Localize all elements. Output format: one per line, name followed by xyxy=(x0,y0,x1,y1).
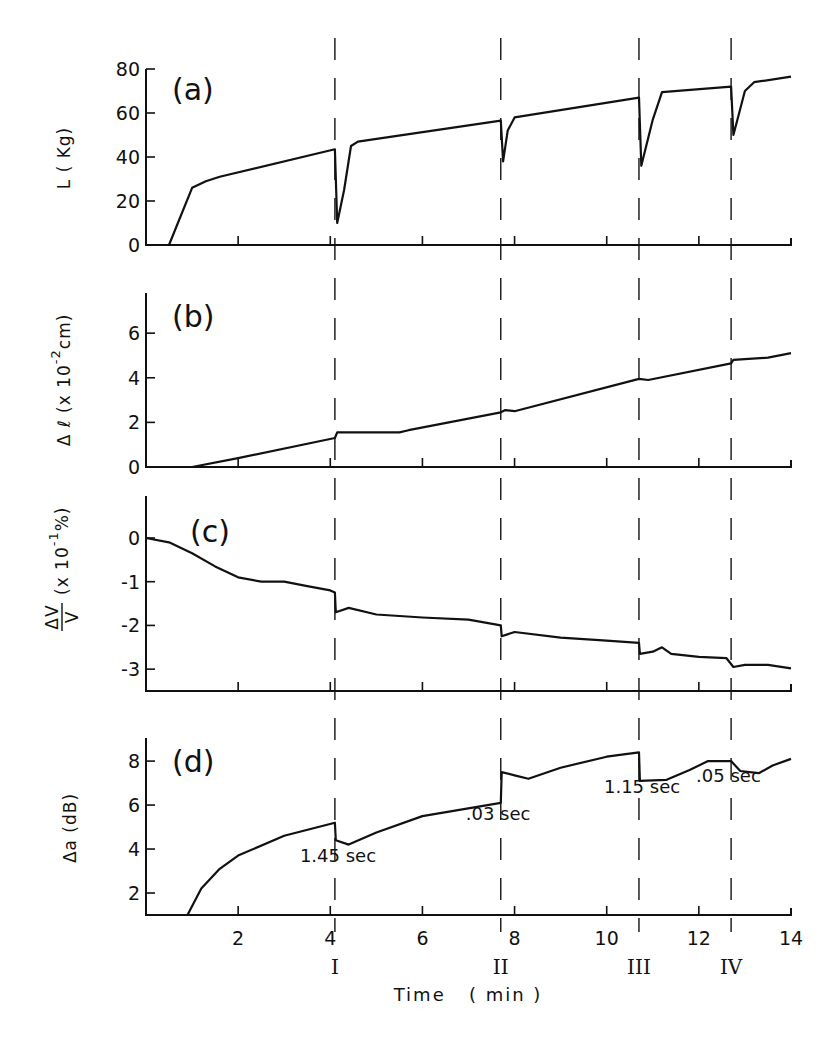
panel-b-ylabel-unit: cm) xyxy=(54,314,74,350)
y-tick-label: 4 xyxy=(128,367,140,389)
panel-b-ticks: 0246 xyxy=(128,322,699,478)
panel-c-ylabel: ΔV V (x 10-1%) xyxy=(42,507,82,632)
event-label: I xyxy=(331,955,339,979)
panel-c-ylabel-denominator: V xyxy=(62,611,82,624)
x-tick-label: 2 xyxy=(232,927,244,949)
y-tick-label: 40 xyxy=(116,146,140,168)
panel-d-axes xyxy=(146,738,791,915)
panel-d-ylabel: Δa (dB) xyxy=(60,793,80,863)
panel-c-ylabel-exp: -1 xyxy=(46,531,61,546)
panel-b-ylabel-main: Δ ℓ (x 10 xyxy=(54,364,74,446)
duration-annotation: 1.15 sec xyxy=(604,776,680,797)
x-tick-label: 12 xyxy=(687,927,711,949)
panel-b-ylabel-exp: -2 xyxy=(48,349,63,364)
panel-a-axes xyxy=(146,69,791,245)
duration-annotation: .05 sec xyxy=(696,765,761,786)
panel-c-ylabel-units: (x 10-1%) xyxy=(46,507,72,596)
event-label: IV xyxy=(720,955,743,979)
y-tick-label: -1 xyxy=(121,571,140,593)
panel-b-tag: (b) xyxy=(172,299,214,334)
panel-a-ylabel: L ( Kg) xyxy=(54,127,74,189)
y-tick-label: 0 xyxy=(128,234,140,256)
event-label: III xyxy=(627,955,651,979)
panel-c-ylabel-unit: %) xyxy=(52,507,72,532)
x-tick-label: 4 xyxy=(324,927,336,949)
panel-d: 2468 (d) Δa (dB) 1.45 sec.03 sec1.15 sec… xyxy=(60,738,791,915)
figure: 020406080 (a) L ( Kg) 0246 (b) Δ ℓ (x 10… xyxy=(0,0,840,1039)
panel-b: 0246 (b) Δ ℓ (x 10-2cm) xyxy=(48,293,791,478)
y-tick-label: -3 xyxy=(121,658,140,680)
y-tick-label: 6 xyxy=(128,322,140,344)
y-tick-label: 2 xyxy=(128,411,140,433)
y-tick-label: 80 xyxy=(116,58,140,80)
panel-c-ylabel-main: (x 10 xyxy=(52,546,72,595)
y-tick-label: 0 xyxy=(128,527,140,549)
panel-a-tag: (a) xyxy=(172,72,214,107)
duration-annotation: 1.45 sec xyxy=(300,845,376,866)
panel-c-axes xyxy=(146,496,791,691)
y-tick-label: 20 xyxy=(116,190,140,212)
panel-c-ylabel-numerator: ΔV xyxy=(42,604,62,629)
x-tick-label: 14 xyxy=(779,927,803,949)
panel-c-tag: (c) xyxy=(190,514,230,549)
y-tick-label: 8 xyxy=(128,750,140,772)
panel-c: 0-1-2-3 (c) ΔV V (x 10-1%) xyxy=(42,496,791,691)
panel-d-tag: (d) xyxy=(172,744,214,779)
panel-c-volume-change-curve xyxy=(146,538,791,668)
panel-c-ticks: 0-1-2-3 xyxy=(121,527,699,691)
panel-b-elongation-curve xyxy=(146,353,791,467)
panel-a-load-curve xyxy=(169,77,791,245)
y-tick-label: 4 xyxy=(128,838,140,860)
x-tick-labels: 2468101214 xyxy=(232,927,803,949)
x-tick-label: 6 xyxy=(416,927,428,949)
y-tick-label: 0 xyxy=(128,456,140,478)
y-tick-label: 60 xyxy=(116,102,140,124)
panel-b-ylabel: Δ ℓ (x 10-2cm) xyxy=(48,314,74,447)
panel-b-axes xyxy=(146,293,791,467)
x-tick-label: 8 xyxy=(509,927,521,949)
x-axis-label: Time ( min ) xyxy=(393,984,543,1005)
event-dashed-lines xyxy=(335,38,731,932)
y-tick-label: 6 xyxy=(128,794,140,816)
panel-d-annotations: 1.45 sec.03 sec1.15 sec.05 sec xyxy=(300,765,761,865)
event-labels: IIIIIIIV xyxy=(331,955,743,979)
panel-a: 020406080 (a) L ( Kg) xyxy=(54,58,791,256)
event-label: II xyxy=(493,955,509,979)
y-tick-label: -2 xyxy=(121,614,140,636)
y-tick-label: 2 xyxy=(128,882,140,904)
duration-annotation: .03 sec xyxy=(466,803,531,824)
x-tick-label: 10 xyxy=(595,927,619,949)
